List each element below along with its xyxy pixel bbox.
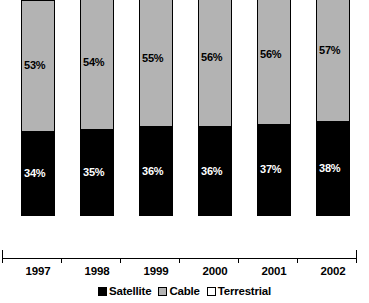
segment-value-label: 37%: [258, 164, 281, 175]
bar-2000[interactable]: 8% 56% 36%: [198, 0, 232, 218]
segment-cable-2001[interactable]: 56%: [257, 0, 291, 125]
segment-value-label: 38%: [317, 163, 340, 174]
bar-2002[interactable]: 5% 57% 38%: [316, 0, 350, 218]
legend-swatch-icon-satellite: [98, 287, 107, 296]
x-axis-tick: [238, 258, 239, 263]
segment-value-label: 56%: [258, 49, 281, 60]
segment-value-label: 53%: [22, 60, 45, 71]
legend-item-satellite[interactable]: Satellite: [98, 286, 151, 298]
segment-value-label: 35%: [81, 167, 104, 178]
legend-swatch-icon-terrestrial: [207, 287, 216, 296]
bar-1997[interactable]: 13% 53% 34%: [21, 0, 55, 218]
segment-value-label: 55%: [140, 53, 163, 64]
x-axis-tick: [179, 258, 180, 263]
x-axis-tick: [120, 258, 121, 263]
segment-satellite-1999[interactable]: 36%: [139, 126, 173, 216]
x-axis-label-1997: 1997: [9, 265, 67, 277]
segment-cable-1997[interactable]: 53%: [21, 0, 55, 132]
legend-item-cable[interactable]: Cable: [158, 286, 199, 298]
x-axis-tick: [356, 258, 357, 263]
bar-1999[interactable]: 9% 55% 36%: [139, 0, 173, 218]
x-axis-label-2001: 2001: [245, 265, 303, 277]
legend-swatch-icon-cable: [158, 287, 167, 296]
x-axis-label-2000: 2000: [186, 265, 244, 277]
segment-value-label: 56%: [199, 52, 222, 63]
segment-satellite-2000[interactable]: 36%: [198, 126, 232, 216]
segment-satellite-2002[interactable]: 38%: [316, 121, 350, 216]
segment-value-label: 57%: [317, 45, 340, 56]
plot-area: 13% 53% 34% 11% 54% 35% 9%: [0, 0, 369, 262]
segment-value-label: 36%: [199, 166, 222, 177]
bar-1998[interactable]: 11% 54% 35%: [80, 0, 114, 218]
legend-label-satellite: Satellite: [109, 286, 151, 298]
segment-cable-2002[interactable]: 57%: [316, 0, 350, 122]
segment-value-label: 34%: [22, 168, 45, 179]
x-axis-label-1999: 1999: [127, 265, 185, 277]
x-axis-label-2002: 2002: [304, 265, 362, 277]
legend-label-cable: Cable: [169, 286, 199, 298]
segment-value-label: 36%: [140, 166, 163, 177]
segment-cable-1998[interactable]: 54%: [80, 0, 114, 130]
segment-satellite-1997[interactable]: 34%: [21, 131, 55, 216]
legend-label-terrestrial: Terrestrial: [218, 286, 271, 298]
x-axis-label-1998: 1998: [68, 265, 126, 277]
segment-cable-2000[interactable]: 56%: [198, 0, 232, 127]
chart-legend: Satellite Cable Terrestrial: [0, 286, 369, 298]
segment-satellite-2001[interactable]: 37%: [257, 124, 291, 217]
x-axis-tick: [61, 258, 62, 263]
x-axis-tick: [297, 258, 298, 263]
bar-2001[interactable]: 7% 56% 37%: [257, 0, 291, 218]
x-axis-tick: [2, 258, 3, 263]
segment-cable-1999[interactable]: 55%: [139, 0, 173, 127]
legend-item-terrestrial[interactable]: Terrestrial: [207, 286, 271, 298]
stacked-bar-chart: 13% 53% 34% 11% 54% 35% 9%: [0, 0, 369, 303]
segment-value-label: 54%: [81, 57, 104, 68]
segment-satellite-1998[interactable]: 35%: [80, 129, 114, 217]
